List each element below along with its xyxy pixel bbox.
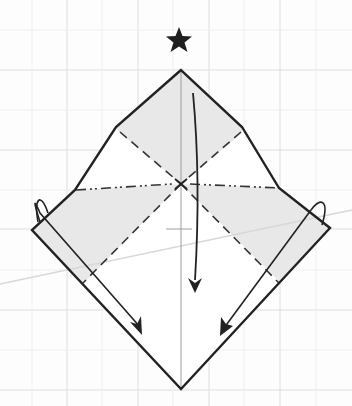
reference-star-icon [166, 27, 192, 52]
origami-diagram [0, 0, 352, 406]
diagram-canvas [0, 0, 352, 406]
